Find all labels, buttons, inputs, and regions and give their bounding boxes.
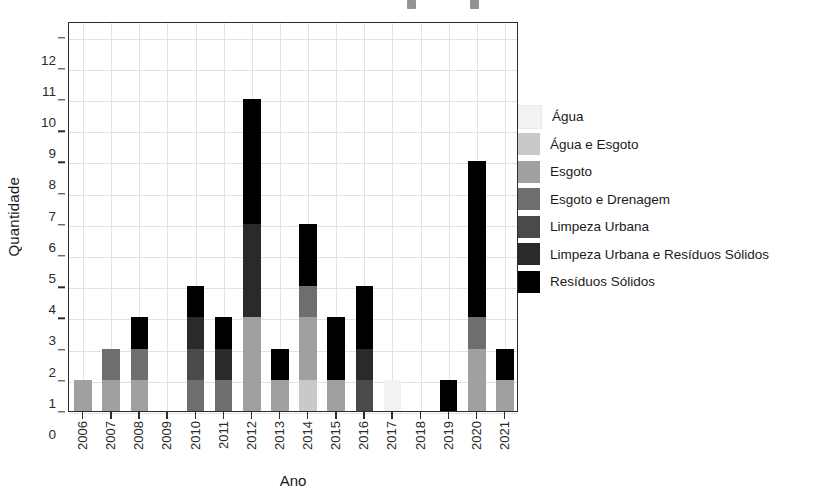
- legend-item: Limpeza Urbana e Resíduos Sólidos: [518, 241, 830, 269]
- bar-segment: [243, 224, 260, 318]
- bar-segment: [327, 317, 344, 379]
- y-tick-mark: [58, 37, 65, 38]
- plot-panel: [68, 22, 518, 412]
- y-tick-mark: [58, 318, 65, 319]
- bar-segment: [215, 349, 232, 380]
- legend-item: Água e Esgoto: [518, 131, 830, 159]
- bar-group: [496, 349, 513, 411]
- bar-group: [356, 286, 373, 411]
- scan-artifact: [470, 0, 479, 9]
- bar-segment: [299, 317, 316, 379]
- bar-segment: [131, 349, 148, 380]
- x-tick-mark: [138, 412, 139, 419]
- y-tick-label: 12: [4, 52, 56, 67]
- bar-segment: [356, 349, 373, 380]
- x-tick-label: 2020: [469, 421, 484, 450]
- x-tick-label: 2016: [356, 421, 371, 450]
- x-tick-label: 2015: [328, 421, 343, 450]
- bar-group: [74, 380, 91, 411]
- x-tick-mark: [251, 412, 252, 419]
- x-tick-mark: [504, 412, 505, 419]
- y-tick-label: 3: [4, 333, 56, 348]
- bar-segment: [299, 380, 316, 411]
- bar-segment: [384, 380, 401, 411]
- legend-label: Água e Esgoto: [550, 137, 639, 152]
- bar-segment: [496, 380, 513, 411]
- legend-item: Esgoto e Drenagem: [518, 186, 830, 214]
- bar-segment: [187, 286, 204, 317]
- legend-label: Água: [552, 109, 584, 124]
- bar-segment: [356, 380, 373, 411]
- legend-swatch: [518, 105, 542, 129]
- bar-segment: [215, 380, 232, 411]
- x-tick-mark: [195, 412, 196, 419]
- y-tick-mark: [58, 380, 65, 381]
- x-tick-label: 2006: [75, 421, 90, 450]
- bar-group: [243, 99, 260, 411]
- y-tick-mark: [58, 193, 65, 194]
- stacked-bar-chart: Quantidade 0123456789101112 200620072008…: [0, 0, 834, 499]
- y-tick-mark: [58, 68, 65, 69]
- bar-group: [271, 349, 288, 411]
- legend-item: Limpeza Urbana: [518, 213, 830, 241]
- bar-segment: [131, 317, 148, 348]
- legend-swatch: [518, 133, 540, 155]
- bar-segment: [496, 349, 513, 380]
- bar-group: [299, 224, 316, 411]
- legend-swatch: [518, 271, 540, 293]
- x-tick-label: 2007: [103, 421, 118, 450]
- scan-artifact: [407, 0, 416, 9]
- bar-segment: [468, 349, 485, 411]
- legend-swatch: [518, 188, 540, 210]
- bar-segment: [187, 349, 204, 380]
- y-tick-label: 6: [4, 239, 56, 254]
- x-tick-label: 2009: [159, 421, 174, 450]
- y-tick-mark: [58, 99, 65, 100]
- x-axis-title: Ano: [68, 472, 518, 489]
- y-tick-mark: [58, 162, 65, 163]
- y-tick-label: 11: [4, 83, 56, 98]
- y-tick-mark: [58, 286, 65, 287]
- bar-segment: [299, 286, 316, 317]
- bar-segment: [356, 286, 373, 348]
- legend-label: Esgoto: [550, 164, 592, 179]
- bars-layer: [69, 23, 517, 411]
- x-tick-label: 2019: [441, 421, 456, 450]
- y-tick-label: 7: [4, 208, 56, 223]
- legend-item: Esgoto: [518, 158, 830, 186]
- x-tick-mark: [391, 412, 392, 419]
- legend-label: Limpeza Urbana e Resíduos Sólidos: [550, 247, 769, 262]
- x-tick-label: 2018: [413, 421, 428, 450]
- x-tick-label: 2014: [300, 421, 315, 450]
- bar-group: [468, 161, 485, 411]
- bar-segment: [243, 317, 260, 411]
- y-axis-tick-labels: 0123456789101112: [0, 22, 56, 412]
- x-tick-mark: [448, 412, 449, 419]
- legend-label: Resíduos Sólidos: [550, 274, 655, 289]
- legend-item: Resíduos Sólidos: [518, 268, 830, 296]
- legend-swatch: [518, 161, 540, 183]
- bar-segment: [187, 317, 204, 348]
- x-tick-label: 2008: [131, 421, 146, 450]
- x-tick-mark: [335, 412, 336, 419]
- x-tick-mark: [82, 412, 83, 419]
- y-tick-mark: [58, 224, 65, 225]
- x-tick-label: 2010: [188, 421, 203, 450]
- bar-group: [131, 317, 148, 411]
- x-tick-mark: [110, 412, 111, 419]
- y-tick-mark: [58, 411, 65, 412]
- bar-group: [384, 380, 401, 411]
- y-tick-mark: [58, 255, 65, 256]
- bar-segment: [440, 380, 457, 411]
- bar-segment: [299, 224, 316, 286]
- x-tick-mark: [223, 412, 224, 419]
- bar-segment: [271, 380, 288, 411]
- x-axis-tick-marks: [68, 412, 518, 420]
- y-tick-label: 10: [4, 115, 56, 130]
- bar-group: [215, 317, 232, 411]
- bar-segment: [102, 380, 119, 411]
- y-tick-label: 5: [4, 271, 56, 286]
- x-tick-mark: [307, 412, 308, 419]
- y-tick-label: 0: [4, 427, 56, 442]
- y-tick-label: 1: [4, 395, 56, 410]
